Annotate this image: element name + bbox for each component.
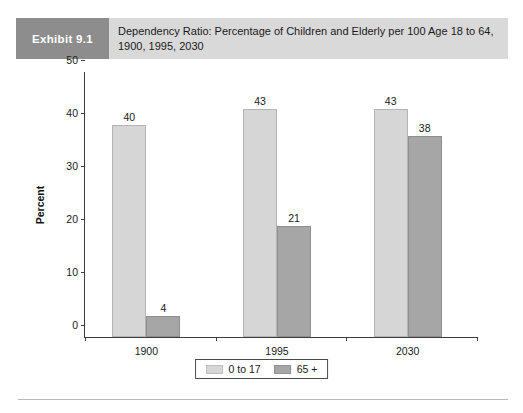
bar-2030-children[interactable]: 43 [374, 109, 408, 337]
bar-1900-children[interactable]: 40 [112, 125, 146, 337]
x-axis-label-1995: 1995 [265, 345, 288, 357]
bar-value-label: 43 [254, 95, 266, 107]
exhibit-title: Dependency Ratio: Percentage of Children… [109, 18, 508, 59]
chart-legend: 0 to 1765 + [195, 359, 329, 379]
bar-group: 4338 [346, 72, 477, 337]
legend-item-elderly[interactable]: 65 + [274, 363, 318, 375]
bar-value-label: 21 [288, 212, 300, 224]
legend-label: 0 to 17 [229, 363, 261, 375]
plot-area: Percent 01020304050 40443214338 19001995… [84, 72, 477, 338]
y-axis-tick-label: 10 [66, 266, 78, 278]
x-axis-tick-mark [216, 337, 217, 341]
y-axis-tick: 50 [66, 54, 85, 66]
y-axis-tick-label: 0 [72, 319, 78, 331]
bars-layer: 40443214338 [85, 72, 477, 337]
legend-swatch-icon [206, 365, 223, 374]
bar-value-label: 4 [160, 302, 166, 314]
y-axis-title: Percent [34, 185, 46, 224]
exhibit-number-tag: Exhibit 9.1 [16, 18, 109, 59]
legend-item-children[interactable]: 0 to 17 [206, 363, 261, 375]
y-axis-tick-label: 50 [66, 54, 78, 66]
bar-group: 4321 [216, 72, 347, 337]
bar-group: 404 [85, 72, 216, 337]
bar-value-label: 40 [123, 111, 135, 123]
y-axis-tick-label: 30 [66, 160, 78, 172]
y-axis-tick-label: 40 [66, 107, 78, 119]
page-divider-rule [18, 399, 508, 400]
x-axis-tick-mark [346, 337, 347, 341]
y-axis-tick: 10 [66, 266, 85, 278]
bar-1995-elderly[interactable]: 21 [277, 226, 311, 337]
bar-1995-children[interactable]: 43 [243, 109, 277, 337]
y-axis-tick: 40 [66, 107, 85, 119]
y-axis-tick: 20 [66, 213, 85, 225]
chart-region: Percent 01020304050 40443214338 19001995… [0, 62, 523, 362]
x-axis-tick-mark [85, 337, 86, 341]
bar-value-label: 38 [419, 122, 431, 134]
x-axis-tick-mark [477, 337, 478, 341]
legend-swatch-icon [274, 365, 291, 374]
legend-label: 65 + [297, 363, 318, 375]
x-axis-label-2030: 2030 [396, 345, 419, 357]
x-axis-label-1900: 1900 [135, 345, 158, 357]
y-axis-tick-mark [81, 60, 85, 61]
bar-value-label: 43 [385, 95, 397, 107]
y-axis-tick: 0 [72, 319, 85, 331]
exhibit-header: Exhibit 9.1 Dependency Ratio: Percentage… [16, 18, 508, 59]
bar-2030-elderly[interactable]: 38 [408, 136, 442, 337]
y-axis-tick-label: 20 [66, 213, 78, 225]
y-axis-tick: 30 [66, 160, 85, 172]
bar-1900-elderly[interactable]: 4 [146, 316, 180, 337]
